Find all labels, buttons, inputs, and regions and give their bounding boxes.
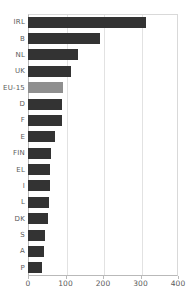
bar <box>28 131 55 142</box>
category-label: P <box>0 260 25 276</box>
x-tick-label: 400 <box>171 279 185 288</box>
x-tick-label: 0 <box>26 279 31 288</box>
bar-chart: IRLBNLUKEU-15DFEFINELILDKSAP 01002003004… <box>0 0 190 301</box>
bar-row <box>28 211 178 227</box>
category-label: L <box>0 194 25 210</box>
bar <box>28 99 62 110</box>
bar <box>28 66 71 77</box>
bar-row <box>28 260 178 276</box>
bar <box>28 164 50 175</box>
bar <box>28 246 44 257</box>
category-label: UK <box>0 63 25 79</box>
bar <box>28 33 100 44</box>
category-label: B <box>0 30 25 46</box>
bar <box>28 197 49 208</box>
category-label: EL <box>0 161 25 177</box>
bar-row <box>28 14 178 30</box>
category-label: IRL <box>0 14 25 30</box>
bar-row <box>28 161 178 177</box>
category-label: I <box>0 178 25 194</box>
bar <box>28 115 62 126</box>
x-tick-mark <box>178 276 179 279</box>
category-label: A <box>0 243 25 259</box>
x-tick-mark <box>28 276 29 279</box>
bar-row <box>28 145 178 161</box>
category-label: DK <box>0 211 25 227</box>
bar <box>28 262 42 273</box>
x-tick-label: 200 <box>96 279 110 288</box>
x-tick-mark <box>103 276 104 279</box>
bar-row <box>28 112 178 128</box>
bar-row <box>28 194 178 210</box>
bar-row <box>28 227 178 243</box>
bar <box>28 230 45 241</box>
category-label: NL <box>0 47 25 63</box>
category-label: FIN <box>0 145 25 161</box>
bar-row <box>28 96 178 112</box>
bar <box>28 148 51 159</box>
category-axis: IRLBNLUKEU-15DFEFINELILDKSAP <box>0 14 25 276</box>
category-label: EU-15 <box>0 80 25 96</box>
bar-row <box>28 129 178 145</box>
bar-series <box>28 14 178 276</box>
bar-row <box>28 243 178 259</box>
x-tick-mark <box>66 276 67 279</box>
category-label: S <box>0 227 25 243</box>
bar <box>28 180 50 191</box>
value-axis: 0100200300400 <box>28 279 178 293</box>
category-label: D <box>0 96 25 112</box>
x-tick-label: 100 <box>58 279 72 288</box>
bar-row <box>28 63 178 79</box>
bar <box>28 82 63 93</box>
category-label: E <box>0 129 25 145</box>
x-tick-mark <box>141 276 142 279</box>
x-tick-label: 300 <box>133 279 147 288</box>
category-label: F <box>0 112 25 128</box>
bar-row <box>28 80 178 96</box>
bar <box>28 49 78 60</box>
bar <box>28 17 146 28</box>
bar <box>28 213 48 224</box>
bar-row <box>28 47 178 63</box>
bar-row <box>28 30 178 46</box>
bar-row <box>28 178 178 194</box>
